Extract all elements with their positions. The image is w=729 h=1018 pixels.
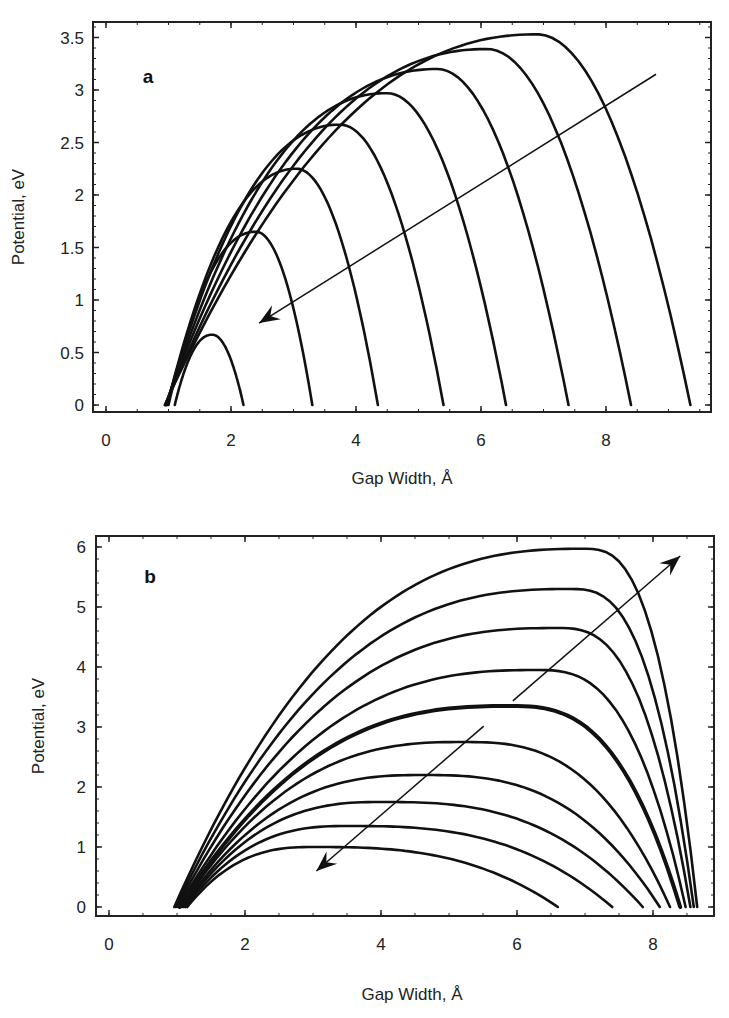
x-tick-label: 0 xyxy=(101,431,110,450)
x-tick-label: 6 xyxy=(476,431,485,450)
panel-label: b xyxy=(144,566,156,587)
y-tick-label: 2.5 xyxy=(60,134,84,153)
y-tick-label: 2 xyxy=(77,778,86,797)
y-tick-label: 1.5 xyxy=(60,239,84,258)
y-axis-title: Potential, eV xyxy=(9,168,28,265)
y-tick-label: 3 xyxy=(75,81,84,100)
y-tick-label: 0 xyxy=(77,898,86,917)
panel-label: a xyxy=(143,66,154,87)
x-tick-label: 0 xyxy=(104,935,113,954)
x-axis-title: Gap Width, Å xyxy=(361,985,463,1004)
y-tick-label: 2 xyxy=(75,186,84,205)
figure: 0246800.511.522.533.5Gap Width, ÅPotenti… xyxy=(0,0,729,1018)
y-tick-label: 1 xyxy=(75,291,84,310)
chart-panel-b: 024680123456Gap Width, ÅPotential, eVb xyxy=(29,536,714,1004)
arrowhead-icon xyxy=(259,305,281,323)
data-curve xyxy=(165,34,691,405)
plot-frame xyxy=(96,536,714,916)
x-tick-label: 2 xyxy=(240,935,249,954)
x-tick-label: 4 xyxy=(376,935,385,954)
y-tick-label: 0 xyxy=(75,396,84,415)
data-curve xyxy=(167,169,378,405)
y-tick-label: 6 xyxy=(77,538,86,557)
x-tick-label: 8 xyxy=(601,431,610,450)
y-tick-label: 5 xyxy=(77,598,86,617)
x-tick-label: 8 xyxy=(648,935,657,954)
chart-panel-a: 0246800.511.522.533.5Gap Width, ÅPotenti… xyxy=(9,22,711,488)
data-curve xyxy=(178,670,685,907)
x-axis-title: Gap Width, Å xyxy=(351,469,453,488)
x-tick-label: 4 xyxy=(351,431,360,450)
y-tick-label: 0.5 xyxy=(60,344,84,363)
annotation-arrow xyxy=(259,74,656,323)
y-tick-label: 1 xyxy=(77,838,86,857)
x-tick-label: 6 xyxy=(512,935,521,954)
data-curve xyxy=(176,589,694,907)
y-tick-label: 3 xyxy=(77,718,86,737)
data-curve xyxy=(187,847,558,907)
x-tick-label: 2 xyxy=(226,431,235,450)
y-tick-label: 3.5 xyxy=(60,29,84,48)
y-tick-label: 4 xyxy=(77,658,86,677)
y-axis-title: Potential, eV xyxy=(29,677,48,774)
data-curve xyxy=(180,706,681,907)
